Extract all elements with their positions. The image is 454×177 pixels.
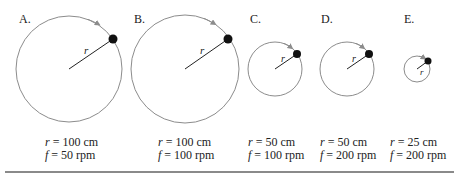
caption-a: r = 100 cm f = 50 rpm bbox=[45, 136, 98, 162]
caption-e: r = 25 cm f = 200 rpm bbox=[390, 136, 446, 162]
panel-c: r bbox=[248, 42, 302, 96]
frequency-value: f = 100 rpm bbox=[248, 149, 304, 162]
radius-label: r bbox=[420, 67, 424, 77]
radius-line bbox=[185, 39, 228, 69]
radius-line bbox=[69, 39, 113, 69]
ball bbox=[224, 35, 233, 44]
ball bbox=[293, 50, 301, 58]
radius-label: r bbox=[352, 53, 356, 64]
direction-arrow-icon bbox=[204, 19, 214, 24]
radius-label: r bbox=[84, 44, 89, 56]
caption-c: r = 50 cm f = 100 rpm bbox=[248, 136, 304, 162]
ball bbox=[365, 50, 373, 58]
frequency-value: f = 100 rpm bbox=[158, 149, 214, 162]
frequency-value: f = 50 rpm bbox=[45, 149, 98, 162]
panel-a: r bbox=[16, 16, 122, 122]
caption-b: r = 100 cm f = 100 rpm bbox=[158, 136, 214, 162]
direction-arrow-icon bbox=[356, 44, 363, 48]
caption-d: r = 50 cm f = 200 rpm bbox=[320, 136, 376, 162]
panel-d: r bbox=[320, 42, 374, 96]
direction-arrow-icon bbox=[88, 20, 98, 25]
frequency-value: f = 200 rpm bbox=[320, 149, 376, 162]
panel-b: r bbox=[131, 15, 239, 123]
frequency-value: f = 200 rpm bbox=[390, 149, 446, 162]
ball bbox=[109, 35, 118, 44]
ball bbox=[425, 58, 432, 65]
panel-e: r bbox=[404, 56, 432, 82]
direction-arrow-icon bbox=[419, 56, 424, 58]
radius-label: r bbox=[281, 53, 285, 64]
direction-arrow-icon bbox=[284, 44, 291, 48]
radius-label: r bbox=[200, 44, 205, 56]
divider-line bbox=[5, 171, 454, 173]
